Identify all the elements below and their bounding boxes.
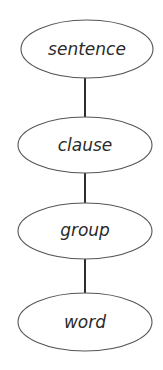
node-clause: clause xyxy=(18,117,152,173)
node-group: group xyxy=(18,203,152,259)
node-label: clause xyxy=(58,135,113,155)
node-label: group xyxy=(60,220,110,240)
rank-scale-diagram: sentence clause group word xyxy=(0,0,163,370)
node-label: sentence xyxy=(48,39,126,59)
node-word: word xyxy=(18,293,152,351)
node-sentence: sentence xyxy=(21,20,153,78)
node-label: word xyxy=(64,312,106,332)
